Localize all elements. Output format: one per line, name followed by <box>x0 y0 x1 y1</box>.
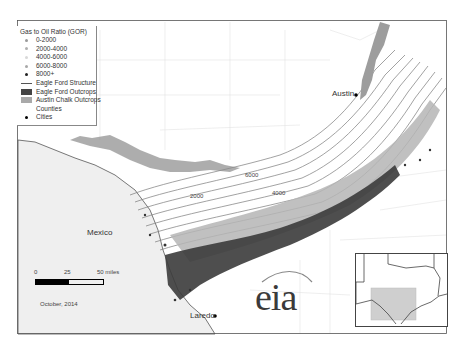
inset-map-texas <box>355 253 448 327</box>
scale-tick-50: 50 miles <box>97 269 119 275</box>
dot-icon <box>25 65 28 68</box>
city-label-austin: Austin <box>332 89 354 98</box>
dot-icon <box>25 47 28 50</box>
legend-item-6000-8000: 6000-8000 <box>20 62 96 71</box>
legend-title: Gas to Oil Ratio (GOR) <box>20 28 96 35</box>
scale-tick-0: 0 <box>34 269 37 275</box>
dot-icon <box>25 39 28 42</box>
city-austin-marker <box>354 93 358 97</box>
legend-item-counties: Counties <box>20 105 96 114</box>
city-label-laredo: Laredo <box>190 311 215 320</box>
legend-item-eagle-ford-outcrops: Eagle Ford Outcrops <box>20 88 96 97</box>
contour-label-6000: 6000 <box>245 172 258 178</box>
legend-item-austin-chalk-outcrops: Austin Chalk Outcrops <box>20 96 96 105</box>
date-label: October, 2014 <box>40 301 78 307</box>
legend: Gas to Oil Ratio (GOR) 0-2000 2000-4000 … <box>17 26 97 126</box>
eia-logo: eia <box>255 278 296 316</box>
legend-item-0-2000: 0-2000 <box>20 36 96 45</box>
dot-icon <box>25 73 28 76</box>
texas-outline-icon <box>356 254 447 326</box>
contour-label-2000: 2000 <box>190 193 203 199</box>
legend-item-cities: Cities <box>20 113 96 122</box>
legend-item-2000-4000: 2000-4000 <box>20 45 96 54</box>
legend-item-8000-plus: 8000+ <box>20 70 96 79</box>
country-label-mexico: Mexico <box>87 228 112 237</box>
legend-item-4000-6000: 4000-6000 <box>20 53 96 62</box>
austin-chalk-outcrop <box>360 22 390 100</box>
box-icon <box>21 97 32 103</box>
contour-label-4000: 4000 <box>272 190 285 196</box>
legend-item-eagle-ford-structure: Eagle Ford Structure <box>20 79 96 88</box>
scale-bar <box>35 279 104 285</box>
scale-tick-25: 25 <box>64 269 71 275</box>
box-icon <box>21 89 32 95</box>
dot-icon <box>25 116 28 119</box>
line-icon <box>21 83 32 84</box>
dot-icon <box>25 56 28 59</box>
